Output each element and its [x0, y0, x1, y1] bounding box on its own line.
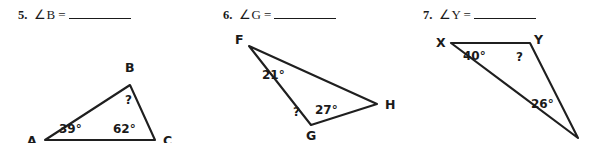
problem-5-angle-label-A: 39° [59, 122, 82, 136]
problem-6-angle-label-H: 27° [315, 103, 338, 117]
problem-7-prompt: 7.∠Y = [423, 7, 536, 23]
problem-7-triangle-svg: X Y 40° ? 26° [405, 28, 616, 143]
problem-5-triangle-svg: A B C 39° ? 62° [0, 28, 205, 143]
problem-7-expression: ∠Y = [439, 7, 471, 22]
problem-5-expression: ∠B = [34, 7, 65, 22]
problem-6: 6.∠G = F G H 21° ? 27° [205, 0, 405, 143]
problem-6-vertex-label-H: H [385, 97, 395, 112]
problem-5-number: 5. [18, 8, 27, 22]
problem-7-angle-label-Y: ? [516, 50, 523, 64]
problem-7-answer-blank[interactable] [474, 7, 536, 19]
problem-6-number: 6. [223, 8, 232, 22]
problem-7-vertex-label-Y: Y [533, 32, 544, 47]
problem-6-triangle-outline [249, 46, 377, 125]
problem-5-vertex-label-B: B [125, 60, 135, 75]
problem-6-vertex-label-F: F [235, 32, 244, 47]
problem-5-angle-label-B: ? [125, 93, 132, 107]
problem-7-angle-label-Z: 26° [531, 97, 554, 111]
problem-5: 5.∠B = A B C 39° ? 62° [0, 0, 205, 143]
problem-6-vertex-label-G: G [306, 128, 316, 143]
problem-7: 7.∠Y = X Y 40° ? 26° [405, 0, 616, 143]
problem-7-vertex-label-X: X [436, 35, 446, 50]
problem-7-figure: X Y 40° ? 26° [405, 28, 616, 143]
problem-6-answer-blank[interactable] [274, 7, 336, 19]
problem-6-angle-label-G: ? [293, 105, 300, 119]
problem-7-angle-label-X: 40° [463, 49, 486, 63]
problem-6-triangle-svg: F G H 21° ? 27° [205, 28, 405, 143]
problem-5-figure: A B C 39° ? 62° [0, 28, 205, 143]
problem-5-answer-blank[interactable] [69, 7, 131, 19]
problem-7-number: 7. [423, 8, 432, 22]
problem-5-angle-label-C: 62° [113, 122, 136, 136]
problem-5-prompt: 5.∠B = [18, 7, 131, 23]
problem-6-expression: ∠G = [239, 7, 271, 22]
problem-6-figure: F G H 21° ? 27° [205, 28, 405, 143]
worksheet-page: 5.∠B = A B C 39° ? 62° 6.∠G = F G H [0, 0, 616, 143]
problem-6-prompt: 6.∠G = [223, 7, 336, 23]
problem-5-vertex-label-C: C [163, 133, 172, 143]
problem-5-vertex-label-A: A [27, 133, 37, 143]
problem-6-angle-label-F: 21° [262, 68, 285, 82]
